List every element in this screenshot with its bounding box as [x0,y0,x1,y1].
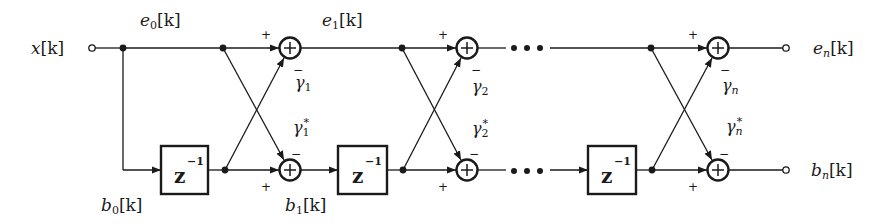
label-e1: e1[k] [322,10,363,32]
svg-text:−: − [293,63,303,77]
gamma-2: γ2 [472,77,489,98]
gamma-1-conj: γ1* [293,116,310,139]
gamma-n: γn [722,76,739,97]
delay-exp-n: −1 [614,155,631,168]
delay-label-n: z [601,164,612,188]
ellipsis-top [511,45,543,51]
label-b0: b0[k] [101,195,142,217]
svg-text:+: + [261,28,271,42]
svg-text:−: − [469,147,479,161]
svg-text:+: + [688,28,698,42]
output-label-en: en[k] [813,38,854,60]
sign-labels: + − − + + − − + + − − + [261,28,730,194]
output-terminal-bottom [783,167,789,173]
svg-text:−: − [291,147,301,161]
svg-text:+: + [438,28,448,42]
svg-text:−: − [720,63,730,77]
lattice-filter-diagram: z −1 z −1 z −1 x[k] e0[k] e1[k] b0[k] b1… [0,0,890,224]
svg-text:+: + [688,180,698,194]
delay-exp-1: −1 [187,155,204,168]
svg-text:+: + [261,180,271,194]
label-e0: e0[k] [140,10,181,32]
delay-label-1: z [174,164,185,188]
gamma-2-conj: γ2* [472,117,489,140]
svg-text:−: − [471,63,481,77]
label-b1: b1[k] [285,195,326,217]
svg-text:−: − [719,147,729,161]
input-label: x[k] [31,38,64,58]
ellipsis-bottom [511,168,543,174]
output-terminal-top [783,45,789,51]
output-label-bn: bn[k] [811,160,853,182]
gamma-n-conj: γn* [726,115,743,138]
svg-text:+: + [438,180,448,194]
input-terminal [89,45,95,51]
delay-label-2: z [352,164,363,188]
delay-exp-2: −1 [365,155,382,168]
